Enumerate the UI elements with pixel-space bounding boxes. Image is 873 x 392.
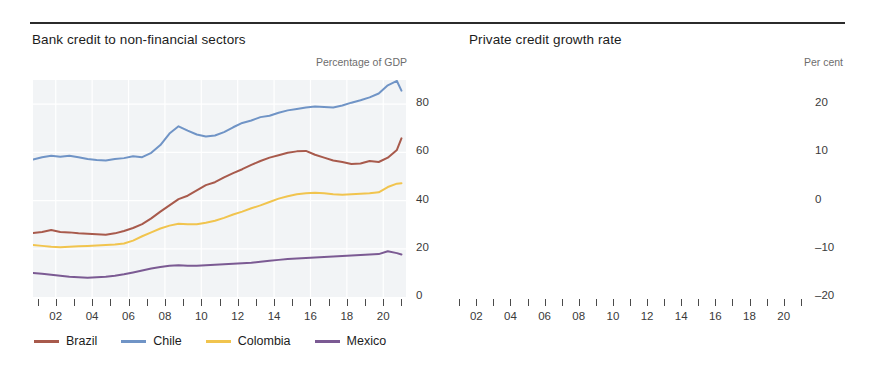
x-tick-mark — [292, 299, 293, 306]
x-tick-label: 02 — [470, 310, 483, 322]
x-tick-label: 10 — [195, 310, 208, 322]
panel-bank-credit: Bank credit to non-financial sectors Per… — [0, 0, 437, 392]
x-tick-label: 12 — [641, 310, 654, 322]
x-tick-label: 16 — [304, 310, 317, 322]
x-tick-mark — [613, 299, 614, 306]
figure-root: Bank credit to non-financial sectors Per… — [0, 0, 873, 392]
x-tick-mark — [698, 299, 699, 306]
legend-label: Mexico — [347, 334, 387, 348]
panel-title-left: Bank credit to non-financial sectors — [32, 32, 246, 47]
x-tick-mark — [183, 299, 184, 306]
x-tick-mark — [220, 299, 221, 306]
x-tick-mark — [596, 299, 597, 306]
x-tick-mark — [493, 299, 494, 306]
x-tick-mark — [681, 299, 682, 306]
x-tick-label: 20 — [377, 310, 390, 322]
x-tick-mark — [647, 299, 648, 306]
x-tick-mark — [801, 299, 802, 306]
x-tick-mark — [201, 299, 202, 306]
x-tick-mark — [256, 299, 257, 306]
legend-label: Brazil — [66, 334, 97, 348]
x-tick-mark — [74, 299, 75, 306]
y-tick-label: 60 — [416, 144, 429, 156]
x-tick-mark — [562, 299, 563, 306]
x-tick-mark — [767, 299, 768, 306]
x-tick-mark — [401, 299, 402, 306]
x-tick-mark — [329, 299, 330, 306]
x-tick-mark — [784, 299, 785, 306]
x-tick-mark — [715, 299, 716, 306]
y-tick-label: 40 — [416, 193, 429, 205]
panel-unit-right: Per cent — [804, 56, 843, 68]
x-tick-label: 02 — [49, 310, 62, 322]
legend-line-swatch — [206, 340, 231, 343]
x-tick-label: 18 — [743, 310, 756, 322]
x-tick-label: 14 — [675, 310, 688, 322]
x-tick-mark — [92, 299, 93, 306]
x-tick-mark — [750, 299, 751, 306]
x-tick-mark — [545, 299, 546, 306]
x-tick-mark — [347, 299, 348, 306]
x-tick-mark — [165, 299, 166, 306]
x-tick-mark — [56, 299, 57, 306]
x-tick-mark — [664, 299, 665, 306]
x-tick-mark — [528, 299, 529, 306]
x-tick-label: 12 — [231, 310, 244, 322]
y-tick-label: –20 — [815, 289, 834, 301]
plot-area-left — [33, 80, 406, 297]
x-tick-mark — [110, 299, 111, 306]
x-tick-mark — [365, 299, 366, 306]
x-tick-label: 14 — [268, 310, 281, 322]
x-tick-mark — [383, 299, 384, 306]
x-tick-mark — [274, 299, 275, 306]
legend-line-swatch — [34, 340, 59, 343]
legend-line-swatch — [121, 340, 146, 343]
y-tick-label: 20 — [815, 96, 828, 108]
panel-title-right: Private credit growth rate — [469, 32, 622, 47]
x-tick-mark — [510, 299, 511, 306]
legend-label: Colombia — [238, 334, 291, 348]
panel-unit-left: Percentage of GDP — [316, 56, 407, 68]
x-tick-label: 04 — [504, 310, 517, 322]
x-tick-mark — [459, 299, 460, 306]
y-tick-label: 0 — [416, 289, 422, 301]
x-tick-mark — [732, 299, 733, 306]
x-tick-mark — [630, 299, 631, 306]
x-tick-label: 06 — [538, 310, 551, 322]
legend-item-brazil[interactable]: Brazil — [34, 334, 97, 348]
x-tick-label: 10 — [607, 310, 620, 322]
legend-line-swatch — [315, 340, 340, 343]
x-tick-label: 20 — [777, 310, 790, 322]
x-tick-mark — [147, 299, 148, 306]
x-tick-label: 08 — [159, 310, 172, 322]
y-tick-label: 80 — [416, 96, 429, 108]
legend-left: BrazilChileColombiaMexico — [34, 334, 410, 348]
x-tick-mark — [476, 299, 477, 306]
x-tick-label: 06 — [122, 310, 135, 322]
x-tick-label: 08 — [572, 310, 585, 322]
legend-item-chile[interactable]: Chile — [121, 334, 182, 348]
x-tick-label: 16 — [709, 310, 722, 322]
x-tick-mark — [579, 299, 580, 306]
panel-private-credit-growth: Private credit growth rate Per cent –20–… — [437, 0, 873, 392]
x-tick-label: 18 — [340, 310, 353, 322]
x-tick-label: 04 — [86, 310, 99, 322]
legend-label: Chile — [153, 334, 182, 348]
y-tick-label: 10 — [815, 144, 828, 156]
legend-item-mexico[interactable]: Mexico — [315, 334, 387, 348]
x-tick-mark — [38, 299, 39, 306]
y-tick-label: 0 — [815, 193, 821, 205]
x-tick-mark — [238, 299, 239, 306]
y-tick-label: 20 — [416, 241, 429, 253]
x-tick-mark — [129, 299, 130, 306]
x-tick-mark — [310, 299, 311, 306]
y-tick-label: –10 — [815, 241, 834, 253]
legend-item-colombia[interactable]: Colombia — [206, 334, 291, 348]
